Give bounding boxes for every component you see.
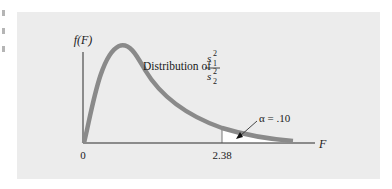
denominator-sup: 2 <box>213 67 217 76</box>
x-tick-0: 0 <box>80 149 86 161</box>
y-axis-label: f(F) <box>74 33 93 47</box>
f-distribution-chart: f(F) F 0 2.38 α = .10 Distribution of s … <box>0 0 392 189</box>
denominator-sub: 2 <box>213 77 217 86</box>
numerator-s: s <box>207 52 211 64</box>
alpha-label: α = .10 <box>259 112 291 124</box>
distribution-label: Distribution of <box>143 60 211 72</box>
figure: f(F) F 0 2.38 α = .10 Distribution of s … <box>0 0 392 189</box>
x-tick-critical: 2.38 <box>212 149 232 161</box>
x-axis-label: F <box>318 137 327 151</box>
denominator-s: s <box>207 70 211 82</box>
numerator-sup: 2 <box>213 49 217 58</box>
